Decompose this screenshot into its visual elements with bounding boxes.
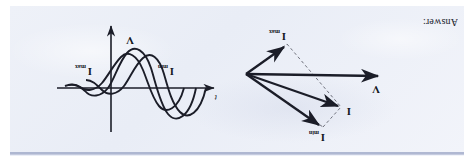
answer-label: Answer: (423, 17, 458, 28)
waveform-label-i-min-subscript: min (157, 64, 168, 70)
page-bottom-rule-shadow (10, 154, 464, 155)
phasor-labels: V I I min I max (269, 29, 380, 144)
phasor-label-i-max-subscript: max (269, 29, 280, 35)
scanned-page: V I I min I max (0, 0, 464, 162)
waveform-label-t: t (214, 93, 217, 103)
phasor-vectors (246, 44, 378, 127)
phasor-label-i: I (347, 106, 351, 118)
phasor-label-i-min: I (321, 132, 325, 144)
scan-area: V I I min I max (10, 6, 464, 156)
construction-line-parallelogram-a (323, 107, 341, 127)
phasor-label-i-max: I (282, 31, 286, 43)
waveform-label-v: V (126, 35, 134, 47)
vector-v (246, 74, 378, 76)
rotated-figure-container: V I I min I max (10, 6, 464, 156)
phasor-label-v: V (372, 84, 380, 96)
waveform-label-i-max: I (88, 66, 92, 78)
phasor-diagram: V I I min I max (10, 6, 464, 156)
waveform-curve-i-min (86, 55, 206, 115)
phasor-label-i-min-subscript: min (308, 130, 319, 136)
vector-i (246, 74, 338, 106)
vector-i-max (246, 47, 284, 74)
waveform-label-i-max-subscript: max (75, 64, 86, 70)
vector-i-min (246, 74, 319, 125)
waveform-label-i-min: I (170, 66, 174, 78)
waveform-diagram: t V I min I max (57, 26, 217, 132)
